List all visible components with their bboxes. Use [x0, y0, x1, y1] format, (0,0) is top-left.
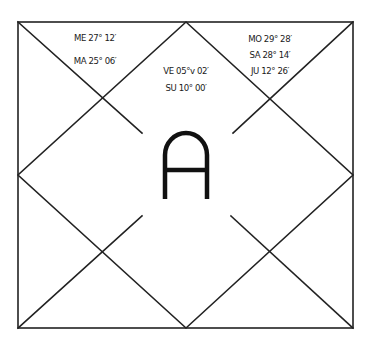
- planet-label-venus: VE 05°v 02′: [163, 66, 208, 76]
- planet-label-sun: SU 10° 00′: [165, 83, 206, 93]
- diagonal-br: [231, 216, 353, 328]
- planet-label-saturn: SA 28° 14′: [250, 50, 291, 60]
- center-letter-glyph: [165, 133, 207, 199]
- planet-label-moon: MO 29° 28′: [248, 34, 292, 44]
- planet-label-mercury: ME 27° 12′: [74, 33, 116, 43]
- planet-label-jupiter: JU 12° 26′: [251, 66, 289, 76]
- kundli-chart: [0, 0, 371, 348]
- planet-label-mars: MA 25° 06′: [74, 56, 117, 66]
